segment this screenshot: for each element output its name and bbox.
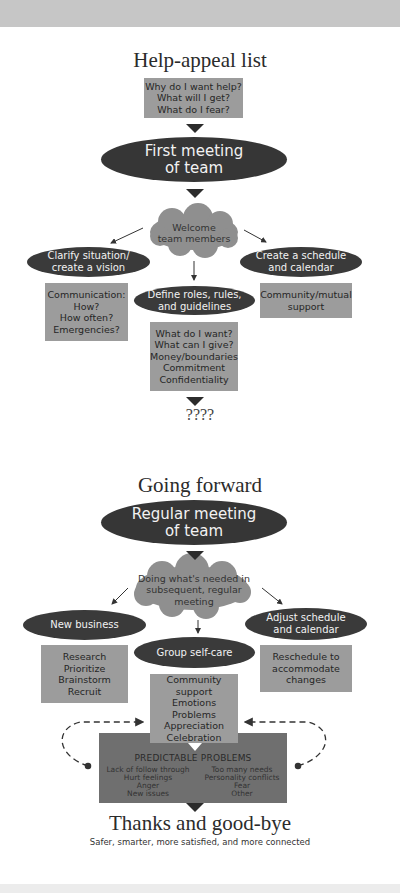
problem-item: New issues — [103, 790, 193, 798]
define-roles-ellipse: Define roles, rules, and guidelines — [134, 286, 255, 315]
box-line: Emergencies? — [53, 324, 119, 336]
ellipse-line: Regular meeting — [132, 506, 256, 523]
ellipse-line: Group self-care — [156, 647, 232, 659]
welcome-cloud: Welcome team members — [148, 218, 240, 248]
adjust-schedule-ellipse: Adjust schedule and calendar — [245, 608, 367, 640]
box-line: changes — [286, 674, 326, 686]
box-line: What do I fear? — [157, 104, 230, 116]
ellipse-line: Clarify situation/ — [47, 250, 129, 262]
ellipse-line: Create a schedule — [256, 250, 347, 262]
doing-whats-needed-cloud: Doing what's needed in subsequent, regul… — [136, 570, 252, 610]
box-line: Why do I want help? — [145, 81, 242, 93]
box-line: What do I want? — [155, 328, 232, 340]
first-meeting-ellipse: First meeting of team — [101, 137, 287, 182]
problems-right-column: Too many needs Personality conflicts Fea… — [199, 766, 285, 798]
help-questions-box: Why do I want help? What will I get? Wha… — [144, 78, 243, 118]
box-line: Reschedule to — [272, 651, 339, 663]
ellipse-line: First meeting — [145, 143, 243, 160]
box-line: What will I get? — [157, 92, 230, 104]
down-triangle-icon — [186, 551, 204, 560]
problems-left-column: Lack of follow through Hurt feelings Ang… — [103, 766, 193, 798]
box-line: Confidentiality — [159, 374, 228, 386]
unknown-outcome: ???? — [0, 406, 400, 424]
regular-meeting-ellipse: Regular meeting of team — [101, 500, 287, 545]
box-line: Problems — [172, 709, 216, 721]
closing-subtitle: Safer, smarter, more satisfied, and more… — [0, 837, 400, 847]
box-line: How often? — [60, 312, 113, 324]
box-line: Celebration — [167, 732, 222, 744]
box-line: Research — [63, 651, 107, 663]
box-line: Money/boundaries — [150, 351, 238, 363]
ellipse-line: New business — [50, 619, 119, 631]
clarify-situation-ellipse: Clarify situation/ create a vision — [27, 247, 150, 277]
closing-title: Thanks and good-bye — [0, 811, 400, 835]
box-line: Community support — [150, 674, 238, 697]
cloud-line: subsequent, regular — [146, 584, 241, 596]
ellipse-line: and calendar — [268, 262, 333, 274]
down-triangle-icon — [186, 124, 204, 133]
ellipse-line: and calendar — [273, 624, 338, 636]
box-line: How? — [74, 301, 100, 313]
reschedule-box: Reschedule to accommodate changes — [260, 645, 352, 692]
ellipse-line: Adjust schedule — [266, 612, 345, 624]
box-line: Community/mutual — [260, 289, 352, 301]
predictable-problems-title: PREDICTABLE PROBLEMS — [99, 753, 287, 763]
bottom-band — [0, 884, 400, 893]
box-line: Appreciation — [164, 720, 224, 732]
self-care-topics-box: Community support Emotions Problems Appr… — [150, 674, 238, 743]
section-title-help-appeal: Help-appeal list — [0, 48, 400, 72]
box-line: Communication: — [47, 289, 125, 301]
communication-box: Communication: How? How often? Emergenci… — [45, 283, 128, 341]
down-triangle-white-icon — [188, 743, 202, 751]
box-line: Recruit — [68, 686, 102, 698]
cloud-line: meeting — [174, 596, 213, 608]
cloud-line: Welcome — [172, 222, 215, 234]
box-line: Emotions — [172, 697, 216, 709]
ellipse-line: of team — [165, 160, 223, 177]
cloud-line: team members — [158, 233, 231, 245]
down-triangle-icon — [186, 189, 204, 198]
section-title-going-forward: Going forward — [0, 473, 400, 497]
roles-questions-box: What do I want? What can I give? Money/b… — [150, 322, 238, 391]
cloud-line: Doing what's needed in — [138, 573, 250, 585]
box-line: Commitment — [163, 362, 225, 374]
new-business-ellipse: New business — [23, 610, 146, 640]
new-business-tasks-box: Research Prioritize Brainstorm Recruit — [41, 645, 128, 703]
box-line: accommodate — [272, 663, 340, 675]
box-line: What can I give? — [154, 339, 233, 351]
ellipse-line: and guidelines — [158, 301, 231, 313]
ellipse-line: of team — [165, 523, 223, 540]
box-line: Brainstorm — [58, 674, 110, 686]
create-schedule-ellipse: Create a schedule and calendar — [240, 247, 362, 277]
ellipse-line: Define roles, rules, — [147, 289, 241, 301]
community-mutual-box: Community/mutual support — [260, 283, 352, 318]
group-self-care-ellipse: Group self-care — [134, 637, 255, 668]
down-triangle-icon — [186, 397, 204, 406]
box-line: support — [288, 301, 324, 313]
box-line: Prioritize — [64, 663, 106, 675]
problem-item: Other — [199, 790, 285, 798]
ellipse-line: create a vision — [52, 262, 125, 274]
